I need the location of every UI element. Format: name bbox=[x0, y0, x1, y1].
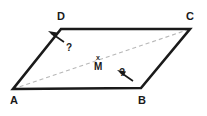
midpoint-x-marker: x bbox=[96, 54, 100, 61]
angle-b-question-mark: ? bbox=[119, 68, 125, 78]
angle-d-question-mark: ? bbox=[66, 43, 72, 53]
midpoint-label-m: M bbox=[94, 62, 102, 72]
geometry-figure: A B C D x M ? ? bbox=[0, 0, 207, 116]
parallelogram-svg bbox=[0, 0, 207, 116]
vertex-label-a: A bbox=[10, 95, 18, 106]
vertex-label-c: C bbox=[186, 11, 194, 22]
vertex-label-d: D bbox=[57, 11, 65, 22]
vertex-label-b: B bbox=[138, 95, 146, 106]
